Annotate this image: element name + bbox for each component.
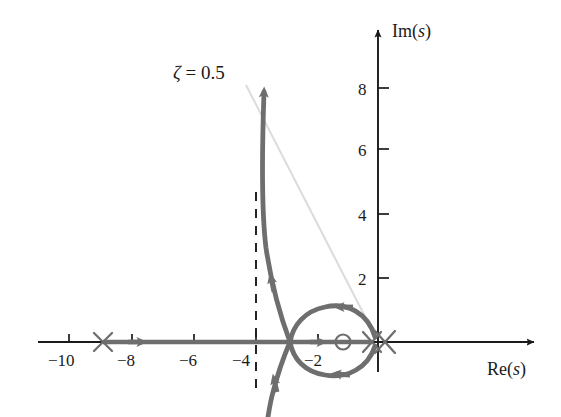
locus-lower-vertical-branch: [268, 342, 290, 417]
zeta-annotation-label: ζ = 0.5: [173, 63, 225, 82]
root-locus-figure: −10 −8 −6 −4 −2 8 6 4 2 Im(s) Re(s) ζ = …: [0, 0, 561, 417]
y-axis-label: Im(s): [392, 22, 431, 40]
y-axis-label-close: ): [425, 21, 431, 41]
y-tick-label-4: 4: [358, 207, 367, 224]
zeta-symbol: ζ: [173, 62, 181, 83]
y-axis-label-text: Im(: [392, 21, 418, 41]
x-tick-label--4: −4: [232, 352, 250, 369]
y-tick-label-8: 8: [358, 81, 367, 98]
x-tick-label--10: −10: [48, 352, 75, 369]
y-tick-label-6: 6: [358, 142, 367, 159]
x-axis-label: Re(s): [487, 360, 526, 378]
x-tick-label--2: −2: [304, 352, 322, 369]
x-tick-label--8: −8: [117, 352, 135, 369]
locus-upper-vertical-branch: [262, 92, 290, 342]
axis-lines: [38, 30, 534, 372]
zeta-equals: =: [181, 62, 201, 83]
y-axis-ticks: [378, 88, 389, 278]
y-tick-label-2: 2: [358, 271, 367, 288]
x-axis-label-var: s: [513, 359, 520, 379]
x-axis-label-text: Re(: [487, 359, 513, 379]
root-locus-canvas: [0, 0, 561, 417]
locus-lower-loop: [290, 342, 375, 376]
zeta-value: 0.5: [201, 62, 225, 83]
y-axis-label-var: s: [418, 21, 425, 41]
x-axis-label-close: ): [520, 359, 526, 379]
x-tick-label--6: −6: [179, 352, 197, 369]
